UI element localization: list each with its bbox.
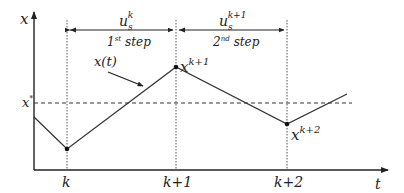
y-axis-label: x	[20, 10, 29, 28]
tick-label-k: k	[62, 174, 70, 190]
point-k1	[174, 65, 179, 70]
x-axis-label: t	[375, 176, 381, 192]
curve-label: x(t)	[94, 54, 117, 69]
step1-label: 1ststep	[107, 35, 151, 49]
step1-control-label: usk	[119, 10, 133, 32]
step1-arrowhead-left	[70, 28, 76, 33]
step2-label: 2ndstep	[212, 35, 260, 49]
point-k2	[285, 122, 290, 127]
step2-control-label: usk+1	[219, 10, 246, 32]
state-trajectory-diagram: x t x* xk+1 xk+2 x(t) usk 1ststep usk+1 …	[0, 0, 404, 193]
point-label-xk1: xk+1	[180, 56, 209, 76]
step2-arrowhead-left	[179, 28, 185, 33]
reference-label: x*	[22, 94, 33, 110]
curve-pointer-arrow	[108, 72, 143, 86]
tick-label-k1: k+1	[163, 174, 192, 190]
tick-label-k2: k+2	[274, 174, 303, 190]
point-label-xk2: xk+2	[291, 124, 320, 144]
point-k	[65, 147, 70, 152]
trajectory-curve	[34, 67, 347, 149]
